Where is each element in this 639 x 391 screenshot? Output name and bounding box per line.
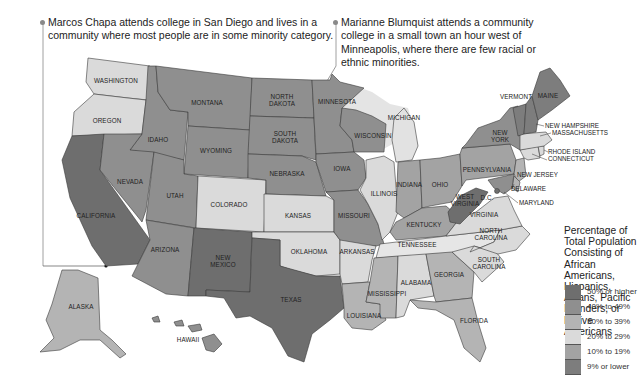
label-new-york-2: YORK	[491, 136, 510, 143]
label-florida: FLORIDA	[460, 317, 489, 324]
label-dc: D.C.	[481, 194, 494, 201]
label-south-dakota-2: DAKOTA	[272, 137, 299, 144]
legend-label: 10% to 19%	[587, 347, 630, 356]
legend-swatch	[565, 330, 581, 345]
state-iowa	[316, 152, 366, 192]
label-delaware: DELAWARE	[511, 185, 546, 192]
label-colorado: COLORADO	[211, 201, 248, 208]
legend-item-20-29: 20% to 29%	[565, 330, 635, 344]
label-new-hampshire: NEW HAMPSHIRE	[545, 122, 599, 129]
state-hawaii-big-island	[202, 334, 222, 352]
legend-label: 30% to 39%	[587, 317, 630, 326]
state-alaska	[40, 270, 126, 358]
label-south-carolina-2: CAROLINA	[473, 263, 507, 270]
label-vermont: VERMONT	[500, 93, 532, 100]
legend-item-10-19: 10% to 19%	[565, 345, 635, 359]
state-hawaii-oahu	[174, 320, 184, 326]
label-idaho: IDAHO	[148, 136, 168, 143]
label-illinois: ILLINOIS	[371, 190, 398, 197]
label-oklahoma: OKLAHOMA	[291, 248, 328, 255]
label-wyoming: WYOMING	[200, 147, 232, 154]
label-hawaii: HAWAII	[177, 336, 200, 343]
label-west-virginia-2: VIRGINIA	[451, 200, 480, 207]
label-iowa: IOWA	[334, 165, 352, 172]
label-maine: MAINE	[538, 92, 558, 99]
label-minnesota: MINNESOTA	[318, 98, 357, 105]
legend-swatch	[565, 345, 581, 360]
label-oregon: OREGON	[93, 117, 122, 124]
label-west-virginia-1: WEST	[456, 193, 475, 200]
label-massachusetts: MASSACHUSETTS	[552, 129, 608, 136]
label-north-carolina-1: NORTH	[480, 227, 503, 234]
label-new-mexico-2: MEXICO	[210, 261, 235, 268]
state-dc	[495, 189, 500, 194]
legend-swatch	[565, 300, 581, 315]
legend-item-9-or-lower: 9% or lower	[565, 360, 635, 374]
legend-swatch	[565, 360, 581, 375]
label-alaska: ALASKA	[68, 303, 94, 310]
legend-label: 50% or higher	[587, 287, 637, 296]
label-virginia: VIRGINIA	[470, 211, 499, 218]
label-montana: MONTANA	[191, 99, 223, 106]
legend-item-30-39: 30% to 39%	[565, 315, 635, 329]
label-north-carolina-2: CAROLINA	[475, 234, 509, 241]
state-florida	[410, 298, 486, 362]
label-kansas: KANSAS	[285, 212, 311, 219]
label-utah: UTAH	[166, 192, 183, 199]
state-oregon	[72, 94, 146, 136]
label-north-dakota-2: DAKOTA	[269, 100, 296, 107]
legend-label: 20% to 29%	[587, 332, 630, 341]
legend-item-40-49: 40% to 49%	[565, 300, 635, 314]
label-mississippi: MISSISSIPPI	[368, 290, 407, 297]
legend-label: 40% to 49%	[587, 302, 630, 311]
label-arizona: ARIZONA	[151, 246, 180, 253]
label-michigan: MICHIGAN	[388, 114, 421, 121]
label-washington: WASHINGTON	[94, 77, 138, 84]
label-north-dakota-1: NORTH	[271, 93, 294, 100]
label-new-jersey: NEW JERSEY	[517, 171, 559, 178]
legend-swatch	[565, 315, 581, 330]
label-california: CALIFORNIA	[77, 212, 116, 219]
label-south-carolina-1: SOUTH	[478, 256, 501, 263]
label-kentucky: KENTUCKY	[406, 221, 442, 228]
label-ohio: OHIO	[432, 181, 449, 188]
label-new-york-1: NEW	[493, 129, 508, 136]
label-arkansas: ARKANSAS	[339, 248, 374, 255]
label-south-dakota-1: SOUTH	[274, 130, 297, 137]
state-indiana	[396, 160, 422, 218]
label-rhode-island: RHODE ISLAND	[548, 148, 596, 155]
label-louisiana: LOUISIANA	[347, 312, 382, 319]
state-hawaii-maui	[188, 324, 202, 332]
label-new-mexico-1: NEW	[216, 254, 231, 261]
label-connecticut: CONNECTICUT	[548, 155, 594, 162]
label-missouri: MISSOURI	[338, 212, 370, 219]
label-georgia: GEORGIA	[434, 271, 465, 278]
label-nevada: NEVADA	[117, 178, 144, 185]
label-pennsylvania: PENNSYLVANIA	[463, 166, 512, 173]
legend-swatch	[565, 285, 581, 300]
label-texas: TEXAS	[280, 296, 301, 303]
legend-label: 9% or lower	[587, 362, 629, 371]
label-alabama: ALABAMA	[401, 279, 432, 286]
state-hawaii-kauai	[152, 316, 160, 322]
label-nebraska: NEBRASKA	[269, 170, 305, 177]
label-tennessee: TENNESSEE	[397, 241, 436, 248]
label-maryland: MARYLAND	[519, 199, 554, 206]
legend-item-50-plus: 50% or higher	[565, 285, 635, 299]
label-indiana: INDIANA	[396, 181, 423, 188]
label-wisconsin: WISCONSIN	[354, 132, 392, 139]
